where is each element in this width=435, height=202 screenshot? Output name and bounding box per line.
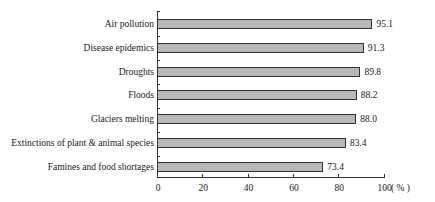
- x-axis-tick: [157, 174, 158, 178]
- bar: [157, 114, 356, 124]
- value-label: 83.4: [350, 137, 367, 149]
- bar: [157, 138, 346, 148]
- bar: [157, 43, 364, 53]
- category-label: Disease epidemics: [84, 42, 154, 54]
- category-label: Droughts: [119, 66, 154, 78]
- y-axis-tick: [157, 11, 160, 12]
- value-label: 91.3: [368, 42, 385, 54]
- x-axis-tick: [338, 174, 339, 178]
- x-axis-unit-label: ( % ): [391, 182, 410, 194]
- bar: [157, 67, 360, 77]
- value-label: 88.0: [360, 113, 377, 125]
- bar: [157, 162, 323, 172]
- y-axis-tick: [157, 60, 160, 61]
- category-label: Extinctions of plant & animal species: [11, 137, 154, 149]
- x-axis-line: [157, 177, 384, 178]
- value-label: 95.1: [376, 18, 393, 30]
- category-label: Floods: [128, 89, 154, 101]
- x-tick-label: 80: [334, 182, 344, 194]
- x-tick-label: 20: [199, 182, 209, 194]
- x-axis-tick: [202, 174, 203, 178]
- horizontal-bar-chart: Air pollution95.1Disease epidemics91.3Dr…: [0, 0, 435, 202]
- y-axis-tick: [157, 36, 160, 37]
- y-axis-tick: [157, 132, 160, 133]
- bar: [157, 90, 357, 100]
- value-label: 89.8: [364, 66, 381, 78]
- value-label: 73.4: [327, 161, 344, 173]
- x-axis-tick: [248, 174, 249, 178]
- category-label: Famines and food shortages: [48, 161, 154, 173]
- y-axis-tick: [157, 84, 160, 85]
- category-label: Glaciers melting: [91, 113, 154, 125]
- x-tick-label: 60: [289, 182, 299, 194]
- x-axis-tick: [384, 174, 385, 178]
- y-axis-tick: [157, 108, 160, 109]
- x-tick-label: 0: [156, 182, 161, 194]
- y-axis-tick: [157, 156, 160, 157]
- bar: [157, 19, 372, 29]
- x-tick-label: 40: [244, 182, 254, 194]
- category-label: Air pollution: [105, 18, 154, 30]
- x-axis-tick: [293, 174, 294, 178]
- value-label: 88.2: [361, 89, 378, 101]
- x-tick-label: 100: [377, 182, 391, 194]
